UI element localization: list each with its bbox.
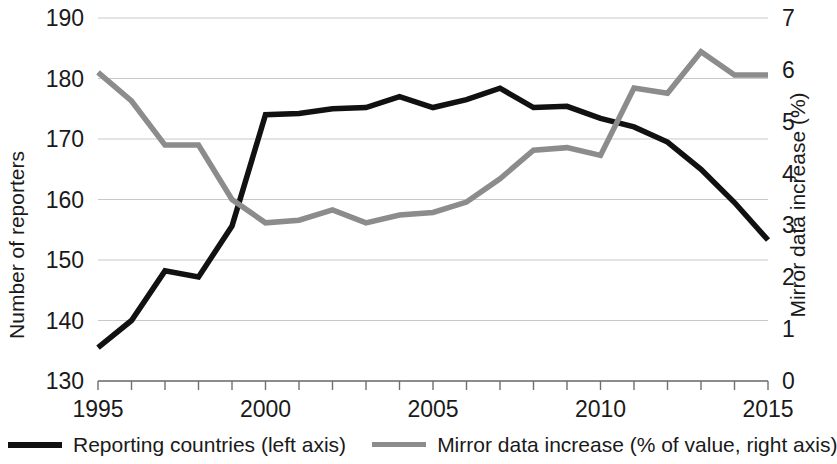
x-axis-tick-labels: 19952000200520102015 xyxy=(72,396,793,422)
gridlines xyxy=(98,18,768,381)
right-axis-title: Mirror data increase (%) xyxy=(786,92,809,317)
legend-item-mirror-data-increase: Mirror data increase (% of value, right … xyxy=(372,433,837,457)
left-axis-title: Number of reporters xyxy=(5,151,28,339)
series-line-reporting-countries xyxy=(98,88,768,348)
right-tick-label: 1 xyxy=(782,316,795,342)
right-tick-label: 7 xyxy=(782,5,795,31)
legend-color-swatch-gray xyxy=(372,442,426,447)
left-tick-label: 150 xyxy=(46,247,84,273)
legend-label-reporting-countries: Reporting countries (left axis) xyxy=(73,433,346,457)
left-tick-label: 130 xyxy=(46,368,84,394)
series-line-mirror-data-increase xyxy=(98,52,768,223)
x-tick-label: 1995 xyxy=(72,396,123,422)
left-axis-tick-labels: 130140150160170180190 xyxy=(46,5,84,394)
right-tick-label: 0 xyxy=(782,368,795,394)
x-tick-label: 2005 xyxy=(407,396,458,422)
left-tick-label: 140 xyxy=(46,308,84,334)
x-axis xyxy=(98,381,768,390)
left-tick-label: 180 xyxy=(46,66,84,92)
x-tick-label: 2015 xyxy=(742,396,793,422)
left-tick-label: 190 xyxy=(46,5,84,31)
x-tick-label: 2000 xyxy=(240,396,291,422)
legend-label-mirror-data-increase: Mirror data increase (% of value, right … xyxy=(437,433,837,457)
x-tick-label: 2010 xyxy=(575,396,626,422)
right-tick-label: 6 xyxy=(782,57,795,83)
dual-axis-line-chart: 130140150160170180190 01234567 199520002… xyxy=(0,0,822,425)
plot-area: 130140150160170180190 01234567 199520002… xyxy=(0,0,822,425)
legend-item-reporting-countries: Reporting countries (left axis) xyxy=(8,433,346,457)
chart-legend: Reporting countries (left axis) Mirror d… xyxy=(0,425,822,464)
legend-color-swatch-black xyxy=(8,442,62,448)
left-tick-label: 170 xyxy=(46,126,84,152)
left-tick-label: 160 xyxy=(46,187,84,213)
